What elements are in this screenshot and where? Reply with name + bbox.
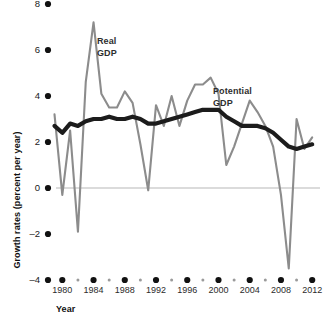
y-tick-dot <box>45 47 51 53</box>
x-major-tick-dot <box>215 277 221 283</box>
x-tick-label: 1988 <box>115 285 135 295</box>
x-tick-label: 2004 <box>240 285 260 295</box>
y-tick-dot <box>45 231 51 237</box>
x-major-tick-dot <box>59 277 65 283</box>
x-tick-label: 1992 <box>146 285 166 295</box>
x-major-tick-dot <box>153 277 159 283</box>
y-tick-dot <box>45 139 51 145</box>
y-tick-label: 2 <box>35 136 40 147</box>
x-major-tick-dot <box>184 277 190 283</box>
x-tick-label: 2008 <box>271 285 291 295</box>
x-major-tick-dot <box>122 277 128 283</box>
x-tick-label: 2000 <box>208 285 228 295</box>
real-gdp-label-line2: GDP <box>97 48 117 58</box>
x-minor-tick-dot <box>170 279 173 282</box>
x-axis-title: Year <box>56 304 76 314</box>
y-axis-title: Growth rates (percent per year) <box>12 131 22 268</box>
y-tick-label: 4 <box>35 90 40 101</box>
y-tick-label: –4 <box>29 274 40 285</box>
y-tick-label: –2 <box>29 228 40 239</box>
x-tick-label: 1996 <box>177 285 197 295</box>
y-tick-label: 6 <box>35 44 40 55</box>
x-tick-label: 2012 <box>302 285 322 295</box>
x-major-tick-dot <box>278 277 284 283</box>
y-tick-dot <box>45 277 51 283</box>
x-minor-tick-dot <box>295 279 298 282</box>
x-tick-label: 1980 <box>52 285 72 295</box>
real-gdp-label-line1: Real <box>97 36 116 46</box>
y-tick-label: 8 <box>35 0 40 9</box>
y-tick-dot <box>45 185 51 191</box>
x-axis-tick-labels: 198019841988199219962000200420082012 <box>52 285 322 295</box>
x-minor-tick-dot <box>108 279 111 282</box>
y-tick-label: 0 <box>35 182 40 193</box>
y-tick-dot <box>45 1 51 7</box>
y-tick-dot <box>45 93 51 99</box>
gdp-growth-chart: –4–202468 198019841988199219962000200420… <box>0 0 334 326</box>
x-minor-tick-dot <box>233 279 236 282</box>
x-tick-label: 1984 <box>84 285 104 295</box>
x-major-tick-dot <box>309 277 315 283</box>
x-minor-tick-dot <box>139 279 142 282</box>
potential-gdp-label-line2: GDP <box>213 98 233 108</box>
x-minor-tick-dot <box>76 279 79 282</box>
chart-canvas: –4–202468 198019841988199219962000200420… <box>0 0 334 326</box>
x-minor-tick-dot <box>264 279 267 282</box>
potential-gdp-label-line1: Potential <box>213 86 252 96</box>
x-major-tick-dot <box>247 277 253 283</box>
x-major-tick-dot <box>90 277 96 283</box>
x-minor-tick-dot <box>201 279 204 282</box>
